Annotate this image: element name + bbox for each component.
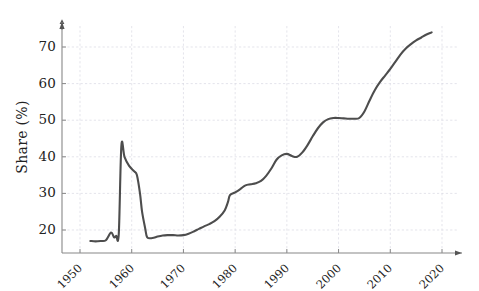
y-tick-label: 70 — [38, 38, 56, 54]
y-tick-label: 30 — [38, 184, 56, 200]
chart-plot-area — [0, 0, 479, 291]
y-axis-arrow-head-icon — [59, 22, 64, 29]
y-tick-label: 60 — [38, 75, 56, 91]
y-axis-ticks — [62, 47, 66, 230]
x-axis-ticks — [80, 249, 442, 253]
data-series-line — [90, 32, 431, 241]
y-tick-label: 20 — [38, 221, 56, 237]
horizontal-gridlines — [63, 47, 458, 230]
y-axis-label: Share (%) — [14, 87, 30, 187]
chart-container: Share (%) 203040506070 19501960197019801… — [0, 0, 479, 291]
y-tick-label: 40 — [38, 148, 56, 164]
y-tick-label: 50 — [38, 111, 56, 127]
x-axis-arrow-head-icon — [455, 250, 462, 255]
vertical-gridlines — [80, 26, 442, 252]
